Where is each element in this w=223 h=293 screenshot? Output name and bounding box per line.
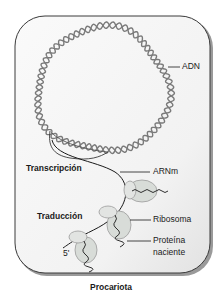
prokaryote-transcription-translation-diagram: ADN Transcripción ARNm Traducción Riboso… <box>0 0 223 293</box>
label-transcription: Transcripción <box>26 164 82 173</box>
label-five-prime: 5' <box>63 249 69 258</box>
label-dna: ADN <box>182 62 200 71</box>
label-protein-line1: Proteína <box>153 236 185 245</box>
label-mrna: ARNm <box>153 167 178 176</box>
diagram-canvas <box>0 0 223 293</box>
label-ribosome: Ribosoma <box>153 215 191 224</box>
figure-caption: Procariota <box>90 282 132 292</box>
label-translation: Traducción <box>37 212 82 221</box>
label-protein-line2: naciente <box>153 248 185 257</box>
